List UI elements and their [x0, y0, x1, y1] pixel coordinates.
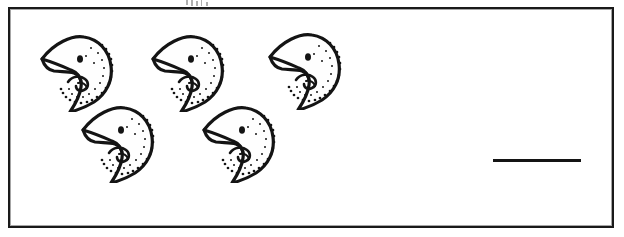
scan-artifact-tick — [206, 2, 208, 6]
scan-artifact-tick — [186, 0, 188, 5]
scan-artifact-tick — [201, 0, 202, 6]
scan-artifact-tick — [191, 0, 193, 6]
answer-line[interactable] — [493, 159, 581, 162]
scan-artifact-tick — [196, 1, 198, 6]
counting-worksheet — [0, 0, 624, 237]
bird-head-5 — [196, 97, 282, 183]
bird-head-4 — [75, 97, 161, 183]
